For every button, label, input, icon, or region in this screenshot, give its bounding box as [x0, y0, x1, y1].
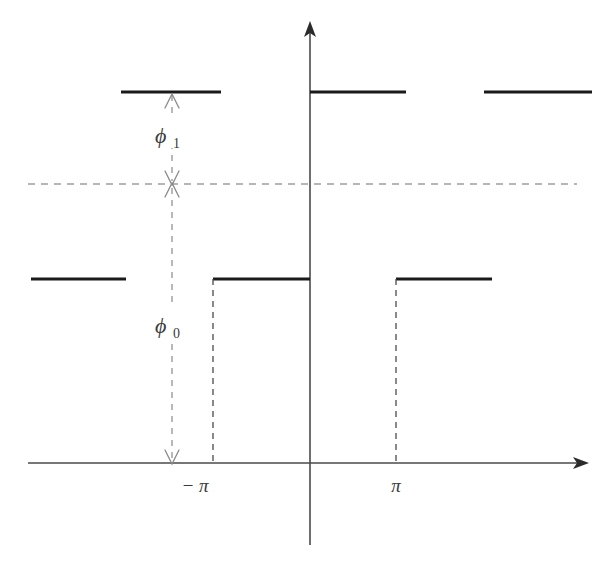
x-tick-label-pi: π: [391, 475, 401, 496]
phi-1-subscript: 1: [173, 136, 180, 151]
axes-group: [28, 21, 589, 545]
square-wave-series: [31, 92, 592, 279]
phase-plot: ϕ 1 ϕ 0 − π π: [0, 0, 609, 570]
phi-1-symbol: ϕ: [155, 123, 166, 148]
x-tick-labels: − π π: [181, 475, 401, 496]
annotation-labels: ϕ 1 ϕ 0: [152, 118, 194, 341]
phi-0-subscript: 0: [173, 326, 180, 341]
figure-root: ϕ 1 ϕ 0 − π π: [0, 0, 609, 570]
phi-0-symbol: ϕ: [155, 313, 166, 338]
drop-lines-group: [213, 279, 396, 463]
x-tick-label-minus-pi: − π: [181, 475, 209, 496]
